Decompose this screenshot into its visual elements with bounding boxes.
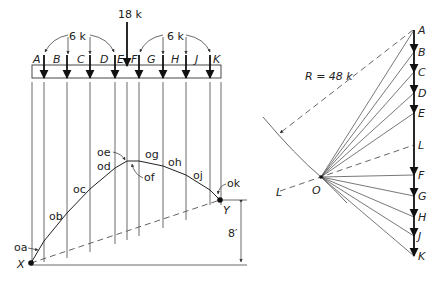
force-label-h: H: [418, 211, 426, 224]
force-label-j: J: [416, 230, 421, 243]
force-label-l: L: [418, 139, 424, 152]
pole-point: [319, 175, 323, 179]
pole-label: O: [312, 184, 321, 197]
space-diagram: 6 k 6 k 18 k A B C D E F G H J K 8′ X Y: [14, 8, 247, 271]
resultant-label: R = 48 k: [305, 70, 353, 83]
string-label-oc: oc: [73, 183, 86, 196]
dimension-label-8ft: 8′: [228, 227, 238, 240]
string-label-oa: oa: [14, 241, 27, 254]
support-x-label: X: [16, 258, 25, 271]
string-label-ok: ok: [227, 177, 241, 190]
space-label-c: C: [77, 53, 85, 66]
space-label-b: B: [53, 53, 61, 66]
funicular-diagram: 6 k 6 k 18 k A B C D E F G H J K 8′ X Y: [0, 0, 441, 284]
beam: [32, 65, 221, 78]
force-label-d: D: [418, 87, 426, 100]
force-label-a: A: [417, 24, 426, 37]
load-line-labels: A B C D E L F G H J K: [416, 24, 427, 263]
string-label-oh: oh: [168, 156, 182, 169]
load-label-6k-right: 6 k: [167, 30, 184, 43]
force-polygon: R = 48 k L: [263, 24, 427, 263]
force-label-k: K: [418, 250, 426, 263]
space-label-e: E: [117, 53, 124, 66]
string-label-oj: oj: [193, 169, 203, 182]
force-label-c: C: [418, 66, 426, 79]
support-x-pin: [28, 260, 34, 266]
space-label-j: J: [193, 53, 198, 66]
support-y-label: Y: [223, 204, 231, 217]
force-label-g: G: [418, 190, 427, 203]
force-label-b: B: [418, 46, 426, 59]
closing-ray-label: L: [276, 186, 282, 199]
string-label-ob: ob: [49, 210, 63, 223]
string-label-og: og: [145, 148, 159, 161]
load-label-18k: 18 k: [118, 8, 142, 21]
space-label-g: G: [147, 53, 156, 66]
space-label-k: K: [213, 53, 221, 66]
space-label-a: A: [32, 53, 41, 66]
force-label-f: F: [418, 169, 425, 182]
force-label-e: E: [418, 107, 425, 120]
load-label-6k-left: 6 k: [69, 30, 86, 43]
space-label-f: F: [131, 53, 138, 66]
space-label-d: D: [100, 53, 108, 66]
support-y-pin: [217, 197, 223, 203]
space-label-h: H: [171, 53, 179, 66]
string-label-of: of: [144, 171, 156, 184]
string-label-od: od: [97, 160, 111, 173]
closing-ray-l: [280, 145, 414, 191]
pole-rays: [321, 30, 414, 256]
string-label-oe: oe: [97, 146, 111, 159]
